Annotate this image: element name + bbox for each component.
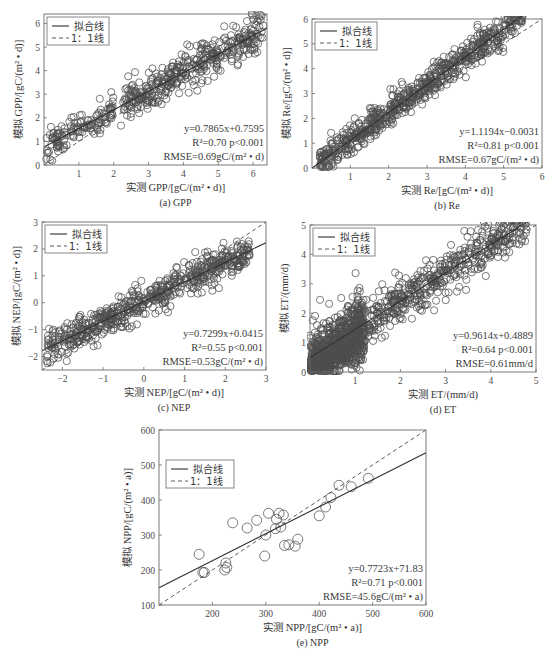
data-point — [512, 217, 519, 224]
y-tick-label: 1 — [301, 338, 306, 348]
data-point — [501, 254, 508, 261]
legend-one-to-one-label: 1：1线 — [339, 37, 372, 49]
data-point — [516, 10, 523, 17]
x-tick-label: −2 — [57, 374, 67, 384]
data-point — [510, 216, 517, 223]
x-tick-label: 1 — [348, 172, 353, 182]
r-squared: R²=0.81 p<0.001 — [467, 140, 539, 151]
y-tick-label: 0 — [33, 298, 38, 308]
data-point — [66, 118, 73, 125]
y-tick-label: 6 — [35, 19, 40, 29]
data-point — [482, 272, 489, 279]
data-point — [204, 248, 211, 255]
legend-fit-label: 拟合线 — [72, 228, 102, 240]
data-point — [138, 277, 145, 284]
data-point — [185, 89, 192, 96]
x-tick-label: 200 — [205, 609, 220, 619]
data-point — [117, 122, 124, 129]
x-tick-label: 0 — [141, 374, 146, 384]
y-tick-label: 2 — [303, 114, 308, 124]
data-point — [228, 518, 238, 528]
data-point — [133, 321, 140, 328]
legend-one-to-one-label: 1：1线 — [71, 32, 104, 44]
data-point — [252, 515, 262, 525]
data-point — [453, 288, 460, 295]
chart-npp: 200300400500600100200300400500600拟合线1：1线… — [121, 426, 433, 650]
data-point — [463, 276, 470, 283]
y-tick-label: 4 — [301, 250, 306, 260]
figure: 1234560123456拟合线1：1线y=0.7865x+0.7595R²=0… — [0, 0, 552, 659]
data-point — [293, 534, 303, 544]
y-tick-label: 5 — [35, 43, 40, 53]
y-tick-label: 1 — [35, 137, 40, 147]
x-tick-label: 4 — [488, 376, 493, 386]
x-axis-label: 实测 ET/(mm/d) — [408, 388, 478, 401]
data-point — [242, 523, 252, 533]
y-tick-label: 400 — [141, 496, 156, 506]
data-point — [506, 210, 513, 217]
legend-one-to-one-label: 1：1线 — [190, 475, 223, 487]
data-point — [433, 297, 440, 304]
data-point — [463, 286, 470, 293]
data-point — [186, 43, 193, 50]
rmse: RMSE=0.53gC/(m² • d) — [162, 356, 263, 368]
y-tick-label: 3 — [301, 279, 306, 289]
y-tick-label: 200 — [141, 566, 156, 576]
data-point — [217, 67, 224, 74]
data-point — [338, 294, 345, 301]
data-point — [520, 198, 527, 205]
y-tick-label: 4 — [303, 64, 308, 74]
legend-one-to-one-label: 1：1线 — [337, 243, 370, 255]
y-axis-label: 模拟 NEP/[gC/(m² • d)] — [10, 246, 23, 346]
legend-fit-label: 拟合线 — [340, 231, 370, 243]
data-point — [316, 296, 323, 303]
x-tick-label: 2 — [398, 376, 403, 386]
data-point — [408, 315, 415, 322]
chart-nep: −2−10123−2−10123拟合线1：1线y=0.7299x+0.0415R… — [10, 218, 269, 415]
data-point — [519, 216, 526, 223]
y-tick-label: 3 — [33, 218, 38, 228]
data-point — [349, 293, 356, 300]
panel-caption: (b) Re — [434, 200, 460, 212]
data-point — [351, 115, 358, 122]
data-point — [513, 212, 520, 219]
data-point — [204, 77, 211, 84]
y-tick-label: 2 — [33, 244, 38, 254]
data-point — [370, 294, 377, 301]
chart-gpp: 1234560123456拟合线1：1线y=0.7865x+0.7595R²=0… — [12, 10, 267, 209]
y-tick-label: 3 — [303, 89, 308, 99]
data-point — [149, 65, 156, 72]
equation: y=0.9614x+0.4889 — [453, 330, 533, 341]
y-tick-label: 300 — [141, 531, 156, 541]
legend: 拟合线1：1线 — [313, 228, 375, 256]
y-axis-label: 模拟 ET/(mm/d) — [278, 263, 291, 333]
y-tick-label: 3 — [35, 90, 40, 100]
data-point — [194, 87, 201, 94]
x-tick-label: 3 — [443, 376, 448, 386]
data-point — [192, 249, 199, 256]
legend-one-to-one-label: 1：1线 — [69, 240, 102, 252]
data-point — [92, 335, 99, 342]
data-point — [398, 78, 405, 85]
x-tick-label: 5 — [534, 376, 539, 386]
data-point — [510, 3, 517, 10]
y-axis-label: 模拟 Re/[gC/(m² • d)] — [280, 48, 293, 140]
x-tick-label: 1 — [353, 376, 358, 386]
x-tick-label: 400 — [312, 609, 327, 619]
data-point — [503, 6, 510, 13]
data-point — [290, 541, 300, 551]
x-tick-label: 4 — [181, 169, 186, 179]
data-point — [513, 8, 520, 15]
data-point — [131, 69, 138, 76]
data-point — [514, 7, 521, 14]
data-point — [431, 307, 438, 314]
x-tick-label: 3 — [425, 172, 430, 182]
x-tick-label: 500 — [365, 609, 380, 619]
x-tick-label: 5 — [501, 172, 506, 182]
data-point — [447, 241, 454, 248]
data-point — [194, 549, 204, 559]
data-point — [456, 283, 463, 290]
chart-et: 12345012345拟合线1：1线y=0.9614x+0.4889R²=0.6… — [278, 198, 539, 417]
y-tick-label: −1 — [28, 325, 38, 335]
rmse: RMSE=0.67gC/(m² • d) — [438, 154, 539, 166]
